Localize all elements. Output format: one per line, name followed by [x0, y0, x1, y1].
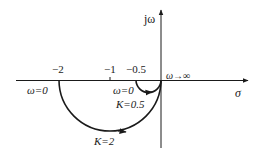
omega-zero-large-label: ω=0: [27, 84, 48, 96]
k-small-label: K=0.5: [115, 98, 145, 110]
omega-zero-small-label: ω=0: [113, 84, 134, 96]
curve-k05-arrow-icon: [146, 92, 152, 93]
curve-k2: [59, 80, 161, 131]
curve-k05: [136, 80, 161, 92]
tick-label-minus-05: −0.5: [126, 63, 146, 75]
tick-label-minus-1: −1: [104, 63, 116, 75]
curve-k2-arrow-icon: [118, 131, 126, 132]
nyquist-diagram: jω σ −2 −1 −0.5 ω→∞ ω=0 ω=0 K=0.5 K=2: [0, 0, 259, 157]
tick-label-minus-2: −2: [52, 63, 64, 75]
imag-axis-label: jω: [143, 12, 155, 26]
omega-inf-label: ω→∞: [166, 70, 190, 81]
k-large-label: K=2: [93, 135, 115, 147]
real-axis-label: σ: [235, 86, 242, 100]
